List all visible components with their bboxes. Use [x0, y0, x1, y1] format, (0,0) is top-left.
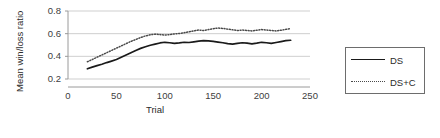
y-tick-label: 0.4 — [37, 50, 61, 61]
legend-label: DS+C — [390, 77, 416, 88]
x-tick-label: 0 — [53, 90, 83, 101]
x-tick-label: 50 — [101, 90, 131, 101]
chart-container: Mean win/loss ratio Trial 0.20.40.60.8 0… — [0, 0, 440, 138]
y-tick-label: 0.2 — [37, 73, 61, 84]
legend-line-dotted-icon — [351, 77, 385, 87]
y-tick-label: 0.6 — [37, 28, 61, 39]
legend-line-solid-icon — [351, 55, 385, 65]
x-tick-label: 100 — [150, 90, 180, 101]
legend-item-ds: DS — [346, 51, 426, 69]
series-line-ds — [87, 40, 290, 69]
x-tick-label: 200 — [247, 90, 277, 101]
x-tick-label: 150 — [198, 90, 228, 101]
y-tick-label: 0.8 — [37, 5, 61, 16]
legend-item-ds-plus-c: DS+C — [346, 73, 426, 91]
legend-label: DS — [390, 55, 403, 66]
x-tick-label: 250 — [295, 90, 325, 101]
chart-legend: DS DS+C — [345, 47, 425, 94]
